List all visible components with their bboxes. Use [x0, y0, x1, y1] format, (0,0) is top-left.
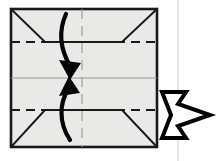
origami-diagram-figure: Origami step: fold top and bottom edges …: [0, 0, 219, 161]
origami-illustration: Origami step: fold top and bottom edges …: [0, 0, 219, 161]
